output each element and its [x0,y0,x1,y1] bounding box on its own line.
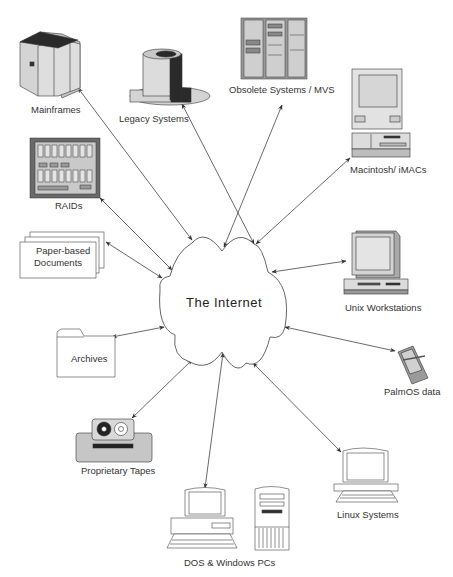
macintosh-label: Macintosh/ iMACs [350,164,427,175]
macintosh-icon [352,69,410,157]
internet-diagram [0,0,453,577]
arrow-tapes [132,360,192,418]
archives-label: Archives [71,353,107,364]
pda-icon [398,346,428,384]
legacy-system-icon [130,49,210,105]
unix-workstations-label: Unix Workstations [345,302,421,313]
mainframe-icon [20,32,80,98]
arrow-unix [272,261,346,272]
linux-terminal-icon [334,448,398,502]
proprietary-tapes-label: Proprietary Tapes [81,465,155,476]
arrow-linux [253,363,341,452]
raid-array-icon [30,138,100,198]
arrow-archives [112,327,164,337]
palmos-label: PalmOS data [384,386,441,397]
arrow-pcs [205,353,223,488]
server-rack-icon [241,18,307,79]
workstation-icon [344,231,408,294]
internet-label: The Internet [186,295,262,310]
arrow-raids [100,198,172,270]
paper-label-line1: Paper-based [34,245,90,257]
pc-tower-icon [167,487,289,551]
arrow-mac [256,158,350,244]
mainframes-label: Mainframes [31,104,81,115]
legacy-systems-label: Legacy Systems [119,113,189,124]
obsolete-systems-label: Obsolete Systems / MVS [229,84,335,95]
arrow-obsolete [224,105,282,247]
raids-label: RAIDs [55,200,82,211]
paper-label-line2: Documents [34,257,90,269]
paper-documents-label: Paper-based Documents [34,245,90,269]
arrow-legacy [182,104,254,244]
tape-drive-icon [76,419,152,462]
dos-windows-label: DOS & Windows PCs [184,557,275,568]
arrow-paper [106,242,162,278]
arrow-palm [285,327,395,351]
linux-systems-label: Linux Systems [337,509,399,520]
